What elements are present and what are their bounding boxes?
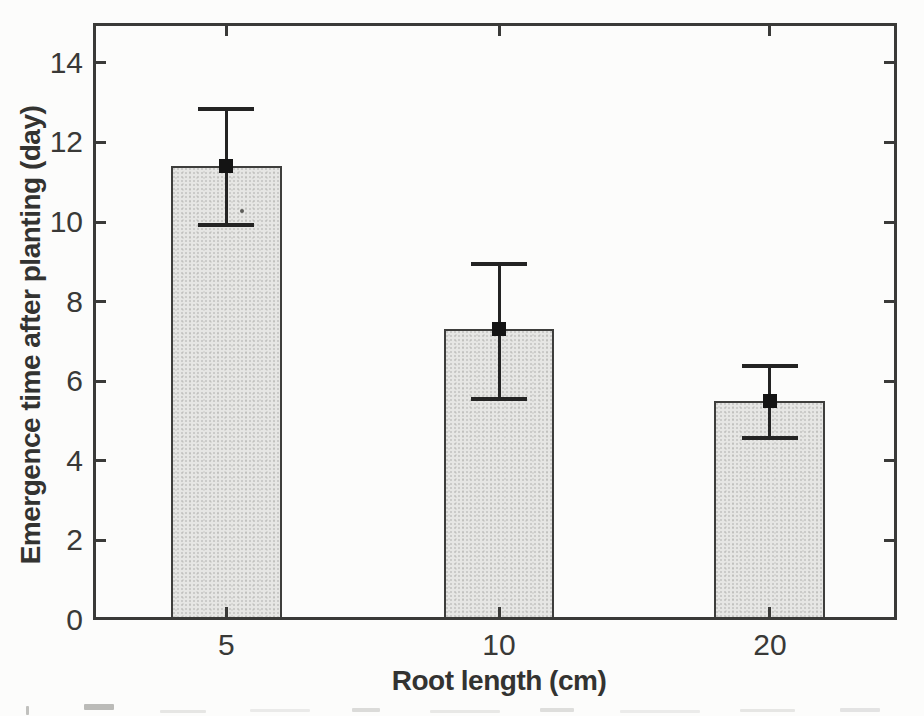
y-tick-right [884,61,894,64]
x-tick-top [225,26,228,36]
y-tick-left [96,141,106,144]
x-tick-bottom [498,607,501,617]
mean-marker-square [492,322,506,336]
y-tick-label: 10 [0,206,83,238]
error-bar-cap-top [198,107,254,111]
y-tick-left [96,221,106,224]
y-tick-label: 8 [0,286,83,318]
y-tick-right [884,539,894,542]
mean-marker-square [219,159,233,173]
error-bar-cap-bottom [198,223,254,227]
y-tick-left [96,300,106,303]
x-tick-label: 5 [181,629,271,661]
y-tick-left [96,61,106,64]
mean-marker-square [763,394,777,408]
y-tick-right [884,221,894,224]
x-tick-top [768,26,771,36]
y-tick-label: 2 [0,524,83,556]
y-tick-label: 14 [0,47,83,79]
y-tick-right [884,300,894,303]
error-bar-cap-top [742,364,798,368]
y-tick-right [884,459,894,462]
x-tick-label: 10 [454,629,544,661]
cut-off-caption-fragment [0,700,924,716]
x-tick-label: 20 [725,629,815,661]
y-tick-left [96,380,106,383]
bar-chart-figure: Emergence time after planting (day) Root… [0,0,924,716]
x-axis-title: Root length (cm) [392,665,606,697]
y-tick-label: 4 [0,445,83,477]
y-tick-left [96,459,106,462]
y-tick-right [884,141,894,144]
x-tick-bottom [225,607,228,617]
x-tick-top [498,26,501,36]
error-bar-cap-bottom [471,397,527,401]
y-tick-label: 12 [0,126,83,158]
y-axis-title: Emergence time after planting (day) [15,106,47,565]
error-bar-cap-top [471,262,527,266]
y-tick-right [884,380,894,383]
error-bar-cap-bottom [742,436,798,440]
y-tick-left [96,539,106,542]
bar [171,166,282,620]
y-tick-label: 0 [0,604,83,636]
scan-artifact-speck [240,209,244,213]
x-tick-bottom [768,607,771,617]
y-tick-label: 6 [0,365,83,397]
plot-area [93,23,897,620]
